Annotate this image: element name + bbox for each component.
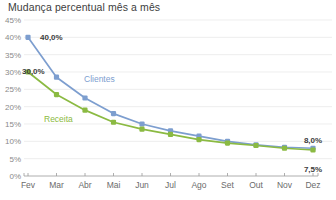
x-axis-tick-label: Nov	[277, 180, 293, 190]
annotation-receita-fev: 30,0%	[22, 67, 45, 76]
value-annotations: 40,0%30,0%8,0%7,5%	[22, 33, 322, 174]
data-point-clientes-jun	[139, 121, 144, 126]
data-point-receita-ago	[196, 137, 201, 142]
x-axis-tick-label: Ago	[191, 180, 206, 190]
data-point-clientes-fev	[25, 35, 30, 40]
data-point-receita-jul	[168, 132, 173, 137]
x-axis-tick-label: Set	[221, 180, 234, 190]
y-axis-tick-label: 35%	[5, 51, 21, 60]
data-point-receita-nov	[282, 146, 287, 151]
y-axis-tick-label: 45%	[5, 16, 21, 25]
data-point-clientes-abr	[82, 95, 87, 100]
chart-plot-area: 45%40%35%30%25%20%15%10%5%0% FevMarAbrMa…	[0, 0, 336, 200]
series-inline-labels: ClientesReceita	[44, 74, 115, 124]
series-label-clientes: Clientes	[84, 74, 115, 84]
series-label-receita: Receita	[44, 114, 73, 124]
chart-container: Mudança percentual mês a mês 45%40%35%30…	[0, 0, 336, 200]
data-point-receita-abr	[82, 108, 87, 113]
x-axis-tick-label: Jul	[165, 180, 176, 190]
y-axis-tick-label: 40%	[5, 33, 21, 42]
series-line-receita	[28, 72, 313, 150]
x-axis-tick-label: Mar	[49, 180, 64, 190]
y-axis-tick-label: 30%	[5, 68, 21, 77]
data-point-receita-out	[253, 143, 258, 148]
y-axis-tick-label: 0%	[9, 172, 21, 181]
data-point-receita-mar	[54, 92, 59, 97]
y-axis-tick-label: 10%	[5, 137, 21, 146]
y-axis-tick-label: 20%	[5, 103, 21, 112]
y-axis-tick-label: 5%	[9, 155, 21, 164]
y-axis-tick-label: 15%	[5, 120, 21, 129]
y-axis-tick-label: 25%	[5, 85, 21, 94]
annotation-clientes-dez: 8,0%	[304, 136, 322, 145]
annotation-clientes-fev: 40,0%	[40, 33, 63, 42]
annotation-receita-dez: 7,5%	[304, 165, 322, 174]
x-axis-labels: FevMarAbrMaiJunJulAgoSetOutNovDez	[21, 180, 321, 190]
data-point-receita-jun	[139, 127, 144, 132]
x-axis	[24, 173, 318, 176]
x-axis-tick-label: Mai	[107, 180, 121, 190]
data-point-clientes-mai	[111, 111, 116, 116]
data-point-receita-mai	[111, 120, 116, 125]
x-axis-tick-label: Jun	[135, 180, 149, 190]
data-point-clientes-mar	[54, 75, 59, 80]
gridlines	[24, 20, 332, 159]
data-point-receita-dez	[310, 147, 315, 152]
x-axis-tick-label: Dez	[305, 180, 320, 190]
y-axis-labels: 45%40%35%30%25%20%15%10%5%0%	[5, 16, 21, 181]
x-axis-tick-label: Abr	[78, 180, 91, 190]
series-markers	[25, 35, 315, 153]
data-point-receita-set	[225, 140, 230, 145]
x-axis-tick-label: Fev	[21, 180, 36, 190]
x-axis-tick-label: Out	[249, 180, 263, 190]
